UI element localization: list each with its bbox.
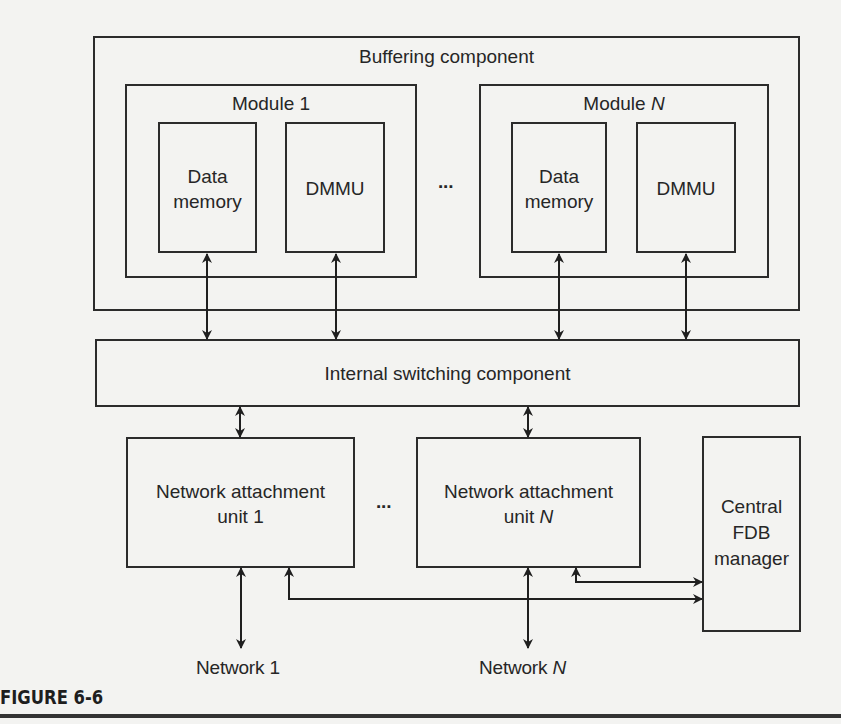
figure-caption: FIGURE 6-6 [0, 685, 103, 709]
arrow-nau-n-fdb [576, 568, 702, 582]
arrow-nau-1-fdb [289, 568, 702, 599]
caption-rule [0, 714, 841, 718]
connector-arrows [0, 0, 841, 724]
